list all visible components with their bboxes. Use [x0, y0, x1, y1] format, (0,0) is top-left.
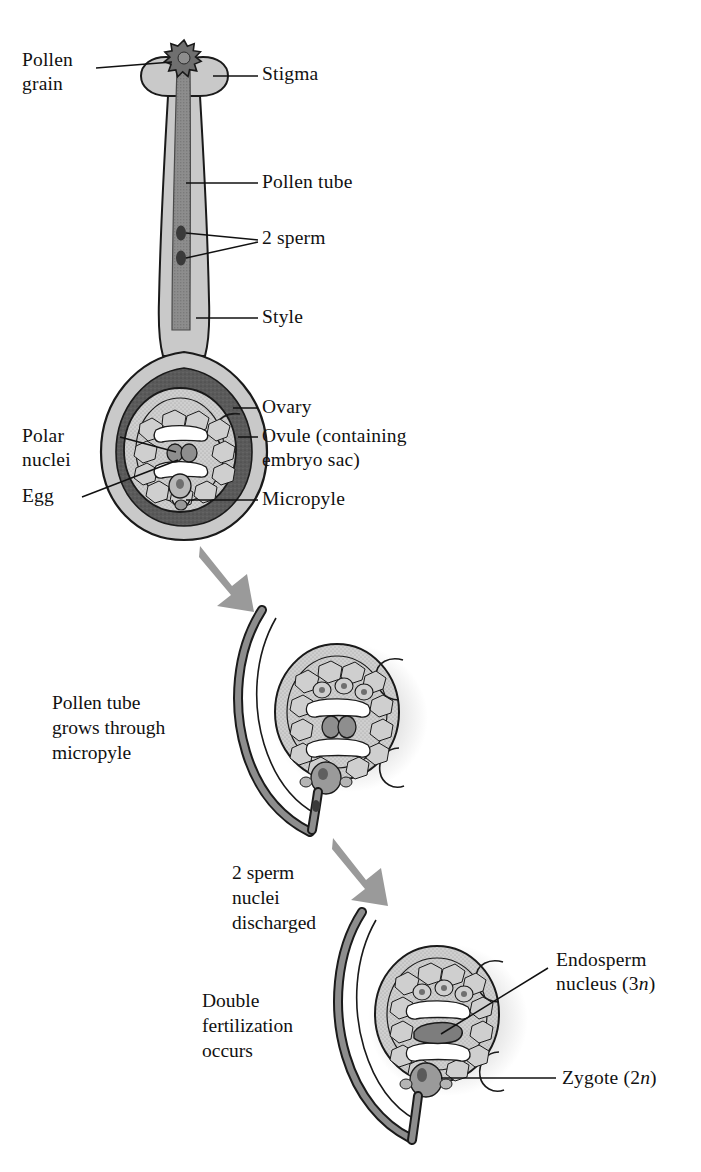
- caption-sperm-discharged: 2 sperm nuclei discharged: [232, 860, 316, 935]
- label-ovule: Ovule (containing embryo sac): [262, 424, 407, 472]
- label-zygote-text: Zygote (2: [562, 1067, 640, 1088]
- egg-cell-1: [169, 474, 191, 498]
- pollen-grain-shape: [164, 40, 201, 77]
- diagram-canvas: Pollen grain Stigma Pollen tube 2 sperm …: [0, 0, 701, 1172]
- label-pollen-grain: Pollen grain: [22, 48, 73, 96]
- label-endosperm-nucleus-text: Endosperm nucleus (3: [556, 949, 647, 994]
- stage4-ovule: [338, 912, 528, 1140]
- label-zygote: Zygote (2n): [562, 1066, 657, 1090]
- label-endosperm-nucleus-italic: n: [639, 973, 649, 994]
- stage2-ovule: [238, 610, 428, 832]
- label-polar-nuclei: Polar nuclei: [22, 424, 71, 472]
- arrow-stage1-to-stage2: [199, 546, 254, 612]
- arrow-stage2-to-stage3: [332, 838, 388, 906]
- label-endosperm-nucleus: Endosperm nucleus (3n): [556, 948, 655, 996]
- label-zygote-suffix: ): [650, 1067, 657, 1088]
- label-endosperm-nucleus-suffix: ): [649, 973, 656, 994]
- stage1-pistil: [101, 40, 267, 540]
- caption-pollen-tube-grows: Pollen tube grows through micropyle: [52, 690, 165, 765]
- label-pollen-tube: Pollen tube: [262, 170, 352, 194]
- label-micropyle: Micropyle: [262, 487, 345, 511]
- label-style: Style: [262, 305, 303, 329]
- label-zygote-italic: n: [640, 1067, 650, 1088]
- label-stigma: Stigma: [262, 62, 318, 86]
- label-ovary: Ovary: [262, 395, 312, 419]
- caption-double-fertilization: Double fertilization occurs: [202, 988, 293, 1063]
- label-2-sperm: 2 sperm: [262, 226, 326, 250]
- label-egg: Egg: [22, 484, 54, 508]
